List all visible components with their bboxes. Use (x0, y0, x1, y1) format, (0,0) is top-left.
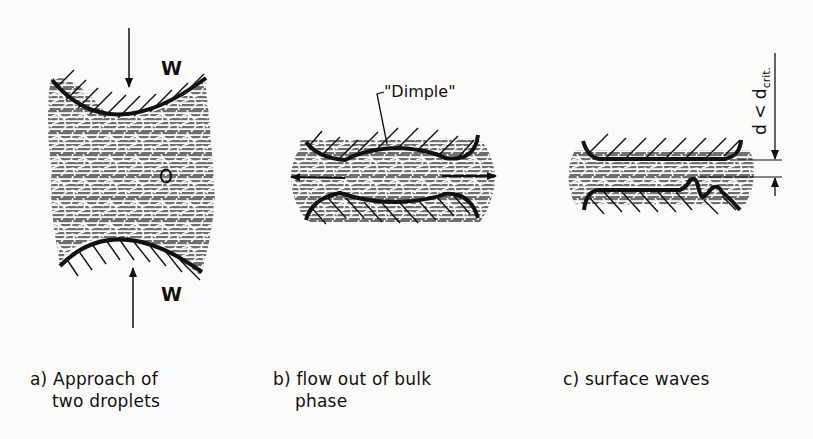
diagram-canvas: W W "Dimple" d < dcrit. a) Approach of t… (0, 0, 813, 439)
panel-a-drawing (48, 28, 215, 328)
dimple-annotation: "Dimple" (384, 82, 456, 101)
caption-a-line2: two droplets (30, 390, 160, 412)
caption-panel-c: c) surface waves (563, 368, 710, 390)
dimension-label-subscript: crit. (760, 67, 773, 88)
caption-panel-a: a) Approach of two droplets (30, 368, 160, 412)
caption-c-line1: surface waves (585, 369, 710, 389)
caption-b-line1: flow out of bulk (296, 369, 431, 389)
force-label-top: W (161, 57, 182, 79)
outflow-arrow-left (291, 177, 345, 178)
dimension-label-main: d < d (750, 88, 770, 135)
caption-a-line1: Approach of (53, 369, 158, 389)
caption-panel-b: b) flow out of bulk phase (273, 368, 431, 412)
panel-b-drawing (291, 92, 496, 224)
dimension-label: d < dcrit. (750, 67, 773, 135)
caption-a-prefix: a) (30, 369, 47, 389)
caption-c-prefix: c) (563, 369, 579, 389)
panel-a-film (48, 78, 215, 275)
force-label-bottom: W (161, 283, 182, 305)
caption-b-line2: phase (273, 390, 431, 412)
caption-b-prefix: b) (273, 369, 291, 389)
